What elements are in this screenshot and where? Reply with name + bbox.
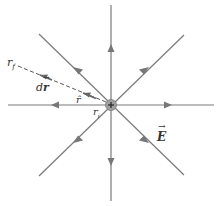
field-diagram <box>0 0 222 206</box>
arrow-right-icon <box>164 102 172 109</box>
label-r-hat: r̂ <box>76 95 81 105</box>
arrow-upleft-icon <box>73 67 83 75</box>
label-dr: d→r <box>36 82 49 93</box>
arrow-up-icon <box>108 44 115 52</box>
label-r-final: rf <box>7 57 15 71</box>
label-E: →E <box>157 131 166 143</box>
arrow-down-icon <box>108 158 115 166</box>
arrow-left-icon <box>51 102 59 109</box>
label-r-initial: ri <box>93 107 100 119</box>
arrow-downleft-icon <box>73 136 83 144</box>
